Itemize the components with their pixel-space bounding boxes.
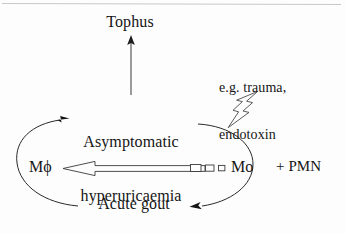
annotation-stimulus-line2: endotoxin	[219, 127, 286, 143]
node-label-asymptomatic-hyperuricaemia: Asymptomatic hyperuricaemia	[81, 97, 182, 234]
scan-edge-line	[2, 4, 341, 5]
node-label-pmn: + PMN	[276, 158, 321, 175]
tophus-arrow	[127, 35, 135, 95]
node-label-asymptomatic-line1: Asymptomatic	[81, 133, 182, 151]
node-label-monocyte: Mo	[231, 158, 253, 176]
node-label-macrophage: Mϕ	[29, 158, 52, 176]
gout-cycle-diagram: Tophus e.g. trauma, endotoxin Asymptomat…	[0, 0, 345, 234]
node-label-acute-gout: Acute gout	[98, 195, 170, 213]
annotation-stimulus: e.g. trauma, endotoxin	[219, 49, 286, 174]
node-label-tophus: Tophus	[106, 13, 153, 31]
annotation-stimulus-line1: e.g. trauma,	[219, 80, 286, 96]
